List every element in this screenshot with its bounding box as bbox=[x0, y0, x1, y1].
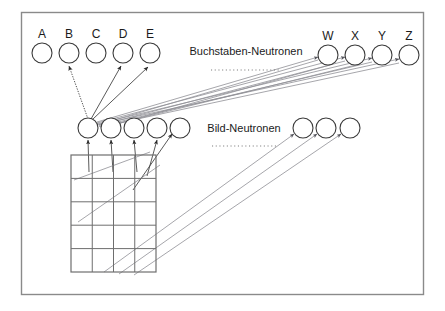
letter-node-X-label: X bbox=[351, 29, 359, 43]
connection-hub-to-D bbox=[91, 66, 121, 119]
letter-neurons-left: A B C D E bbox=[32, 27, 160, 63]
connections-hub-to-left-letters bbox=[69, 66, 148, 119]
connections-grid-to-image-neurons bbox=[88, 134, 172, 190]
connection-hub-to-B bbox=[69, 66, 88, 119]
retina-grid bbox=[71, 155, 156, 272]
letter-node-E-label: E bbox=[146, 27, 154, 41]
letter-node-E[interactable] bbox=[140, 43, 160, 63]
letter-neurons-right: W X Y Z bbox=[318, 29, 419, 65]
letter-node-A-label: A bbox=[38, 27, 46, 41]
image-node-right-1[interactable] bbox=[293, 118, 313, 138]
letter-node-D[interactable] bbox=[113, 43, 133, 63]
image-node-right-3[interactable] bbox=[340, 118, 360, 138]
letter-node-X[interactable] bbox=[345, 45, 365, 65]
bundle-hub-to-right-letters bbox=[97, 57, 399, 128]
neural-network-diagram: A B C D E W X Y Z Buchstaben-Neutronen bbox=[0, 0, 445, 311]
diagram-canvas: A B C D E W X Y Z Buchstaben-Neutronen bbox=[0, 0, 445, 311]
letter-node-Z[interactable] bbox=[399, 45, 419, 65]
letter-node-A[interactable] bbox=[32, 43, 52, 63]
letter-node-B[interactable] bbox=[59, 43, 79, 63]
letter-node-Y[interactable] bbox=[372, 45, 392, 65]
image-layer-group-label: Bild-Neutronen bbox=[207, 122, 280, 134]
image-neurons-right bbox=[293, 118, 360, 138]
letter-layer-group-label: Buchstaben-Neutronen bbox=[189, 45, 302, 57]
letter-node-Z-label: Z bbox=[405, 29, 412, 43]
image-node-1[interactable] bbox=[78, 118, 98, 138]
letter-node-Y-label: Y bbox=[378, 29, 386, 43]
image-node-5[interactable] bbox=[170, 118, 190, 138]
image-node-right-2[interactable] bbox=[316, 118, 336, 138]
letter-node-C[interactable] bbox=[86, 43, 106, 63]
letter-node-C-label: C bbox=[92, 27, 101, 41]
letter-node-W[interactable] bbox=[318, 45, 338, 65]
image-node-4[interactable] bbox=[147, 118, 167, 138]
image-node-2[interactable] bbox=[101, 118, 121, 138]
letter-node-B-label: B bbox=[65, 27, 73, 41]
letter-node-D-label: D bbox=[119, 27, 128, 41]
connection-hub-to-E bbox=[93, 67, 148, 119]
letter-node-W-label: W bbox=[322, 29, 334, 43]
connection-grid-to-image-node-5 bbox=[133, 134, 172, 190]
image-node-3[interactable] bbox=[124, 118, 144, 138]
image-neurons-left bbox=[78, 118, 190, 138]
